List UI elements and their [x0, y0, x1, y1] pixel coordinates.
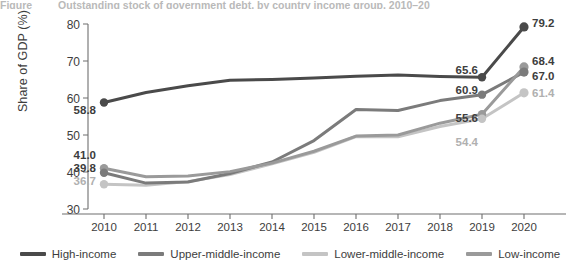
x-tick-2012: 2012 — [166, 221, 210, 233]
x-axis-ticks — [104, 214, 524, 219]
marker-high-income-2019 — [478, 73, 486, 81]
legend-label-high-income: High-income — [52, 248, 117, 260]
legend-swatch-upper-middle-income — [138, 252, 164, 256]
legend-label-upper-middle-income: Upper-middle-income — [170, 248, 280, 260]
legend-swatch-lower-middle-income — [302, 252, 328, 256]
x-tick-2015: 2015 — [292, 221, 336, 233]
marker-high-income-2020 — [519, 22, 528, 31]
legend-label-low-income: Low-income — [498, 248, 560, 260]
chart-container: FigureOutstanding stock of government de… — [0, 0, 580, 272]
x-tick-2019: 2019 — [460, 221, 504, 233]
point-label-low-income-2019: 55.6 — [420, 112, 478, 124]
marker-upper-middle-income-2010 — [100, 169, 108, 177]
marker-lower-middle-income-2010 — [100, 180, 108, 188]
point-label-upper-middle-income-2019: 60.9 — [420, 84, 478, 96]
point-label-upper-middle-income-2010: 39.8 — [34, 162, 96, 174]
marker-upper-middle-income-2020 — [519, 68, 528, 77]
point-label-low-income-2010: 41.0 — [34, 149, 96, 161]
point-label-upper-middle-income-2020: 67.0 — [532, 70, 554, 82]
legend-item-lower-middle-income[interactable]: Lower-middle-income — [302, 248, 444, 260]
x-tick-2011: 2011 — [124, 221, 168, 233]
marker-lower-middle-income-2019 — [478, 115, 486, 123]
marker-upper-middle-income-2019 — [478, 90, 486, 98]
x-tick-2017: 2017 — [376, 221, 420, 233]
point-label-low-income-2020: 68.4 — [532, 55, 554, 67]
x-tick-2010: 2010 — [82, 221, 126, 233]
legend-item-upper-middle-income[interactable]: Upper-middle-income — [138, 248, 280, 260]
point-label-high-income-2019: 65.6 — [420, 64, 478, 76]
point-label-lower-middle-income-2010: 36.7 — [34, 175, 96, 187]
legend-swatch-high-income — [20, 252, 46, 256]
x-tick-2016: 2016 — [334, 221, 378, 233]
point-label-lower-middle-income-2019: 54.4 — [420, 136, 478, 148]
point-label-high-income-2010: 58.8 — [34, 104, 96, 116]
marker-high-income-2010 — [100, 98, 108, 106]
legend-item-low-income[interactable]: Low-income — [466, 248, 560, 260]
plot-area — [0, 0, 580, 245]
x-tick-2018: 2018 — [418, 221, 462, 233]
chart-legend: High-income Upper-middle-income Lower-mi… — [0, 248, 580, 260]
point-label-lower-middle-income-2020: 61.4 — [532, 87, 554, 99]
x-tick-2020: 2020 — [502, 221, 546, 233]
legend-label-lower-middle-income: Lower-middle-income — [334, 248, 444, 260]
legend-item-high-income[interactable]: High-income — [20, 248, 117, 260]
x-tick-2014: 2014 — [250, 221, 294, 233]
point-label-high-income-2020: 79.2 — [532, 17, 554, 29]
x-tick-2013: 2013 — [208, 221, 252, 233]
marker-lower-middle-income-2020 — [519, 88, 528, 97]
legend-swatch-low-income — [466, 252, 492, 256]
